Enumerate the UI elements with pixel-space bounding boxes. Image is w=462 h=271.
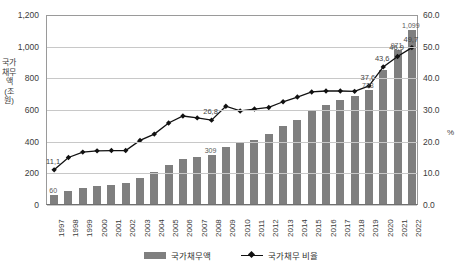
- line-marker: [352, 89, 357, 94]
- y2-axis-title: %: [447, 128, 454, 137]
- gridline: [47, 110, 417, 111]
- x-tick-label: 2008: [214, 207, 223, 237]
- line-marker: [280, 99, 285, 104]
- x-tick-label: 2018: [357, 207, 366, 237]
- x-axis-ticks: 1997199819992000200120022003200420052006…: [46, 207, 418, 247]
- x-tick-label: 2000: [100, 207, 109, 237]
- x-tick-label: 2022: [414, 207, 423, 237]
- x-tick-label: 1999: [85, 207, 94, 237]
- x-tick-label: 2014: [300, 207, 309, 237]
- y2-tick-label: 30.0: [423, 105, 453, 115]
- x-tick-label: 2003: [143, 207, 152, 237]
- legend-item-bar: 국가채무액: [144, 249, 211, 261]
- y-tick-label: 0: [5, 200, 39, 210]
- plot-area: [46, 15, 418, 205]
- x-tick-label: 1998: [71, 207, 80, 237]
- bar-swatch-icon: [144, 252, 166, 259]
- legend-label-line: 국가채무 비율: [268, 249, 318, 261]
- y-tick-label: 400: [5, 137, 39, 147]
- x-tick-label: 2020: [386, 207, 395, 237]
- line-marker: [323, 88, 328, 93]
- line-marker: [338, 88, 343, 93]
- x-tick-label: 2001: [114, 207, 123, 237]
- y2-tick-label: 40.0: [423, 73, 453, 83]
- gridline: [47, 205, 417, 206]
- x-tick-label: 2016: [329, 207, 338, 237]
- y-tick-label: 1,200: [5, 10, 39, 20]
- line-point-label: 11,1: [38, 157, 68, 166]
- x-tick-label: 2004: [157, 207, 166, 237]
- y2-tick-label: 20.0: [423, 137, 453, 147]
- x-tick-label: 2013: [286, 207, 295, 237]
- line-marker: [94, 148, 99, 153]
- y2-tick-label: 10.0: [423, 168, 453, 178]
- y-tick-label: 800: [5, 73, 39, 83]
- gridline: [47, 15, 417, 16]
- x-tick-label: 2005: [171, 207, 180, 237]
- x-tick-label: 2019: [371, 207, 380, 237]
- x-tick-label: 2006: [185, 207, 194, 237]
- x-tick-label: 2007: [200, 207, 209, 237]
- x-tick-label: 2021: [400, 207, 409, 237]
- gridline: [47, 173, 417, 174]
- y2-tick-label: 0.0: [423, 200, 453, 210]
- line-point-label: 26,8: [196, 107, 226, 116]
- line-marker: [109, 148, 114, 153]
- bar-value-label: 971: [382, 42, 412, 49]
- x-tick-label: 2002: [128, 207, 137, 237]
- line-point-label: 43,6: [367, 54, 397, 63]
- x-tick-label: 2015: [314, 207, 323, 237]
- y2-tick-label: 50.0: [423, 42, 453, 52]
- line-marker: [309, 89, 314, 94]
- y-tick-label: 1,000: [5, 42, 39, 52]
- gridline: [47, 142, 417, 143]
- line-path: [54, 48, 412, 170]
- x-tick-label: 2009: [228, 207, 237, 237]
- legend-label-bar: 국가채무액: [171, 249, 211, 261]
- y2-tick-label: 60.0: [423, 10, 453, 20]
- x-tick-label: 1997: [57, 207, 66, 237]
- y-tick-label: 200: [5, 168, 39, 178]
- bar-value-label: 60: [38, 187, 68, 194]
- bar-value-label: 309: [196, 147, 226, 154]
- x-tick-label: 2012: [271, 207, 280, 237]
- chart-container: 국가채무액 (조원) % 02004006008001,0001,200 0.0…: [0, 0, 462, 271]
- gridline: [47, 47, 417, 48]
- bar-value-label: 723: [353, 82, 383, 89]
- bar-value-label: 1,099: [396, 22, 426, 29]
- x-tick-label: 2017: [343, 207, 352, 237]
- line-swatch-icon: [241, 252, 263, 259]
- x-tick-label: 2010: [243, 207, 252, 237]
- line-marker: [295, 94, 300, 99]
- line-marker: [80, 149, 85, 154]
- x-tick-label: 2011: [257, 207, 266, 237]
- legend-item-line: 국가채무 비율: [241, 249, 318, 261]
- line-marker: [180, 113, 185, 118]
- chart-legend: 국가채무액 국가채무 비율: [0, 249, 462, 261]
- y-tick-label: 600: [5, 105, 39, 115]
